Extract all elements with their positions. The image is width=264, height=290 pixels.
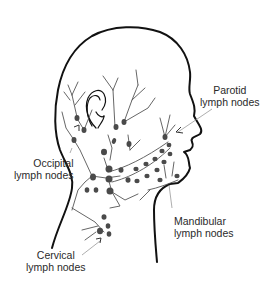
mandibular-label: Mandibular lymph nodes bbox=[174, 215, 234, 239]
mandibular-pointer bbox=[169, 185, 172, 208]
occipital-label-line1: Occipital bbox=[14, 157, 74, 169]
occipital-label-line2: lymph nodes bbox=[14, 169, 74, 181]
occipital-pointer bbox=[70, 148, 72, 153]
lymph-vessels bbox=[62, 70, 178, 240]
occipital-arrowhead-icon bbox=[74, 125, 79, 131]
cervical-label: Cervical lymph nodes bbox=[26, 249, 86, 273]
parotid-label-line2: lymph nodes bbox=[200, 96, 260, 108]
lymph-nodes bbox=[72, 115, 180, 237]
mandibular-label-line2: lymph nodes bbox=[174, 227, 234, 239]
cervical-label-line2: lymph nodes bbox=[26, 261, 86, 273]
mandibular-label-line1: Mandibular bbox=[174, 215, 234, 227]
cervical-label-line1: Cervical bbox=[26, 249, 86, 261]
parotid-label-line1: Parotid bbox=[200, 84, 260, 96]
parotid-arrowhead-icon bbox=[176, 127, 183, 133]
parotid-label: Parotid lymph nodes bbox=[200, 84, 260, 108]
occipital-label: Occipital lymph nodes bbox=[14, 157, 74, 181]
ear bbox=[86, 91, 105, 128]
lymph-node-diagram bbox=[0, 0, 264, 290]
